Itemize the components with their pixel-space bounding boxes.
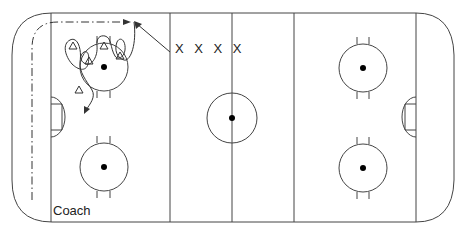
x-players-label: X X X X — [175, 42, 244, 55]
arrowhead-icon — [123, 19, 131, 25]
rink-diagram — [0, 0, 467, 230]
goal-crease-right — [402, 97, 416, 137]
triangle-player-icon — [75, 86, 83, 93]
faceoff-circle-bottom-left — [80, 136, 128, 198]
faceoff-circle-bottom-right — [339, 137, 387, 199]
coach-label: Coach — [53, 204, 91, 217]
faceoff-circle-top-right — [339, 37, 387, 99]
skating-path-dashdot — [32, 22, 125, 200]
arrowhead-icon — [84, 106, 90, 114]
goal-crease-left — [51, 97, 65, 137]
pass-line — [137, 24, 170, 52]
weave-path — [65, 22, 134, 110]
triangle-player-icon — [69, 42, 77, 49]
